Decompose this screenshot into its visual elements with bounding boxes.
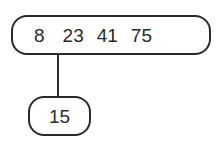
root-key-3: 41: [97, 26, 118, 45]
root-key-4: 75: [131, 26, 152, 45]
child-key-1: 15: [49, 107, 70, 126]
root-key-1: 8: [34, 26, 45, 45]
root-node: 8 23 41 75: [11, 15, 211, 55]
child-node: 15: [28, 96, 91, 136]
edge-root-to-child: [57, 55, 59, 96]
root-key-2: 23: [63, 26, 84, 45]
